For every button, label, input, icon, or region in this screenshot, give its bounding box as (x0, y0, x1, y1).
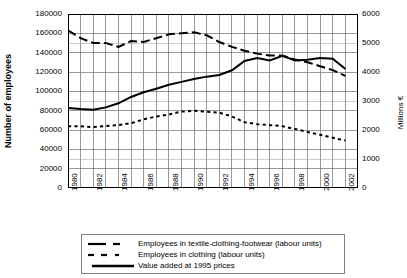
legend-item: Employees in textile-clothing-footwear (… (84, 238, 342, 249)
legend-item: Employees in clothing (labour units) (84, 249, 342, 260)
legend-item-label: Employees in textile-clothing-footwear (… (138, 239, 322, 249)
plot-area (68, 14, 358, 188)
chart-figure: Number of employees Millions € 020000400… (0, 0, 407, 278)
legend-line-swatch-solid-icon (84, 261, 138, 271)
legend-item: Value added at 1995 prices (84, 260, 342, 271)
legend-item-label: Employees in clothing (labour units) (138, 250, 265, 260)
plot-svg (68, 14, 358, 188)
legend-item-label: Value added at 1995 prices (138, 261, 235, 271)
legend-line-swatch-long-dash-icon (84, 239, 138, 249)
legend-line-swatch-dotted-icon (84, 250, 138, 260)
chart-legend: Employees in textile-clothing-footwear (… (81, 234, 345, 274)
